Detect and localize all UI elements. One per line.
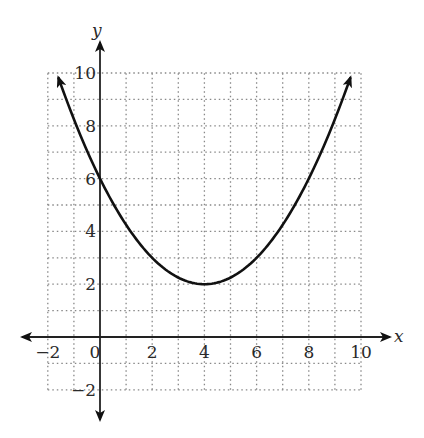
x-tick-label: 2 (147, 342, 158, 362)
parabola-curve (58, 77, 350, 284)
y-tick-label: 6 (85, 169, 96, 189)
x-axis-label: x (394, 326, 404, 346)
y-tick-label: 2 (85, 274, 96, 294)
y-tick-label: 10 (74, 63, 96, 83)
x-tick-label: 6 (251, 342, 262, 362)
x-tick-label: 10 (350, 342, 372, 362)
y-tick-label: −2 (71, 380, 96, 400)
x-tick-label: −2 (35, 342, 60, 362)
y-axis-label: y (91, 20, 102, 40)
x-tick-label: 8 (303, 342, 314, 362)
tick-labels: −20246810−2246810 (35, 63, 372, 400)
x-tick-label: 4 (199, 342, 210, 362)
y-tick-label: 8 (85, 116, 96, 136)
y-tick-label: 4 (85, 221, 96, 241)
x-tick-label: 0 (90, 342, 101, 362)
coordinate-plane: −20246810−2246810 x y (0, 0, 424, 438)
